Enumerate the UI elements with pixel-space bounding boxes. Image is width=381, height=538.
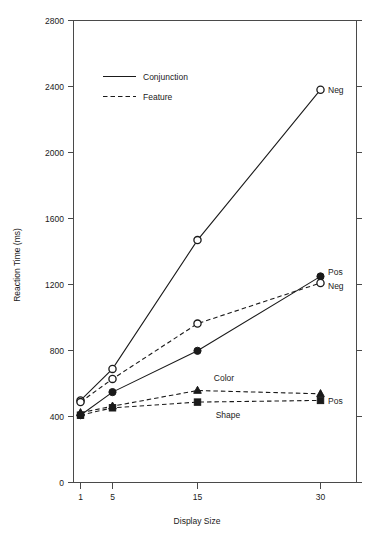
legend-label-feature: Feature bbox=[143, 92, 173, 102]
y-tick-label-2400: 2400 bbox=[45, 82, 64, 92]
series-line-feature-color-neg bbox=[81, 283, 321, 402]
x-tick-label-30: 30 bbox=[316, 492, 326, 502]
series-line-conjunction-neg bbox=[81, 90, 321, 401]
x-tick-label-15: 15 bbox=[193, 492, 203, 502]
y-tick-label-400: 400 bbox=[50, 412, 64, 422]
annotation-feature-shape-pos: Pos bbox=[328, 396, 343, 406]
x-tick-label-1: 1 bbox=[78, 492, 83, 502]
reaction-time-line-chart: 2800 2400 2000 1600 1200 800 400 0 1 5 1… bbox=[0, 0, 381, 538]
data-point-feature-color-pos-30 bbox=[317, 390, 325, 397]
annotation-feature-color-neg: Neg bbox=[328, 281, 344, 291]
annotation-conjunction-pos: Pos bbox=[328, 267, 343, 277]
legend-label-conjunction: Conjunction bbox=[143, 72, 188, 82]
x-axis-ticks bbox=[81, 483, 321, 490]
y-axis-ticks-left bbox=[68, 21, 74, 483]
series-line-conjunction-pos bbox=[81, 276, 321, 415]
data-point-conjunction-pos-5 bbox=[109, 389, 116, 396]
data-point-feature-shape-pos-15 bbox=[194, 399, 200, 405]
data-point-feature-color-pos-15 bbox=[194, 386, 202, 393]
y-tick-label-0: 0 bbox=[59, 478, 64, 488]
y-tick-label-2800: 2800 bbox=[45, 16, 64, 26]
markers-conjunction-neg bbox=[77, 86, 324, 404]
markers-feature-color-neg bbox=[77, 279, 324, 405]
x-tick-label-5: 5 bbox=[110, 492, 115, 502]
y-tick-label-2000: 2000 bbox=[45, 148, 64, 158]
y-axis-title: Reaction Time (ms) bbox=[12, 228, 22, 302]
data-point-feature-shape-pos-1 bbox=[77, 412, 83, 418]
data-point-feature-color-neg-1 bbox=[77, 399, 84, 406]
markers-feature-shape-pos bbox=[77, 397, 323, 418]
annotation-shape: Shape bbox=[216, 410, 241, 420]
markers-conjunction-pos bbox=[77, 273, 324, 419]
y-tick-label-1200: 1200 bbox=[45, 280, 64, 290]
x-axis-title: Display Size bbox=[174, 516, 221, 526]
data-point-feature-color-neg-30 bbox=[317, 279, 324, 286]
data-point-conjunction-neg-15 bbox=[194, 237, 201, 244]
data-point-feature-shape-pos-5 bbox=[109, 405, 115, 411]
y-tick-label-800: 800 bbox=[50, 346, 64, 356]
chart-container: 2800 2400 2000 1600 1200 800 400 0 1 5 1… bbox=[0, 0, 381, 538]
data-point-conjunction-neg-5 bbox=[109, 365, 116, 372]
data-point-feature-color-neg-15 bbox=[194, 320, 201, 327]
data-point-feature-color-neg-5 bbox=[109, 375, 116, 382]
data-point-conjunction-neg-30 bbox=[317, 86, 324, 93]
data-point-conjunction-pos-15 bbox=[194, 347, 201, 354]
annotation-color: Color bbox=[214, 373, 234, 383]
chart-legend: Conjunction Feature bbox=[103, 72, 188, 102]
y-axis-ticks-right bbox=[357, 21, 363, 483]
annotation-conjunction-neg: Neg bbox=[328, 85, 344, 95]
y-tick-label-1600: 1600 bbox=[45, 214, 64, 224]
data-point-feature-shape-pos-30 bbox=[317, 397, 323, 403]
